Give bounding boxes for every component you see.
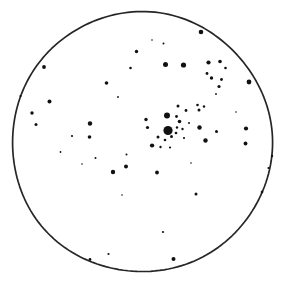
star-point <box>159 146 161 148</box>
star-point <box>195 193 198 196</box>
star-point <box>235 111 237 113</box>
star-point <box>181 128 183 130</box>
star-point <box>210 76 213 79</box>
star-point <box>105 81 109 85</box>
star-point <box>95 157 97 159</box>
star-point <box>30 111 33 114</box>
star-point <box>185 109 188 112</box>
star-point <box>162 231 164 233</box>
star-point <box>183 137 185 139</box>
star-point <box>177 105 180 108</box>
star-point <box>163 62 168 67</box>
star-point <box>71 135 73 137</box>
star-point <box>215 93 217 95</box>
star-point <box>163 126 172 135</box>
star-point <box>117 96 119 98</box>
star-point <box>203 138 207 142</box>
star-point <box>107 253 109 255</box>
plot-background <box>0 0 283 283</box>
star-point <box>175 115 178 118</box>
star-point <box>172 257 176 261</box>
star-point <box>175 132 178 135</box>
star-point <box>224 67 227 70</box>
star-point <box>146 126 149 129</box>
star-point <box>135 50 138 53</box>
star-point <box>48 100 52 104</box>
star-point <box>89 258 92 261</box>
star-point <box>35 123 38 126</box>
telescope-field-figure <box>0 0 283 283</box>
star-point <box>169 146 171 148</box>
star-point <box>178 120 182 124</box>
star-point <box>206 60 210 64</box>
star-field-plot <box>0 0 283 283</box>
star-point <box>144 118 147 121</box>
star-point <box>60 151 62 153</box>
star-point <box>247 80 252 85</box>
star-point <box>163 43 165 45</box>
star-point <box>206 72 209 75</box>
star-point <box>181 62 186 67</box>
star-point <box>197 125 201 129</box>
star-point <box>164 113 170 119</box>
star-point <box>19 95 21 97</box>
star-point <box>155 171 159 175</box>
star-point <box>261 191 264 194</box>
star-point <box>111 170 115 174</box>
star-point <box>217 85 220 88</box>
star-point <box>198 109 201 112</box>
star-point <box>267 167 269 169</box>
star-point <box>126 154 128 156</box>
star-point <box>129 67 132 70</box>
star-point <box>199 30 204 35</box>
star-point <box>220 78 223 81</box>
star-point <box>164 139 167 142</box>
star-point <box>88 135 92 139</box>
star-point <box>244 126 248 130</box>
star-point <box>170 135 173 138</box>
star-point <box>190 162 192 164</box>
star-point <box>203 105 205 107</box>
star-point <box>188 122 190 124</box>
star-point <box>271 155 273 157</box>
star-point <box>196 104 199 107</box>
star-point <box>215 130 218 133</box>
star-point <box>81 163 83 165</box>
star-point <box>88 121 92 125</box>
star-point <box>152 144 154 146</box>
star-point <box>151 39 153 41</box>
star-point <box>176 126 178 128</box>
star-point <box>124 165 128 169</box>
star-point <box>42 65 46 69</box>
star-point <box>157 136 160 139</box>
star-point <box>244 142 248 146</box>
star-point <box>218 60 222 64</box>
star-point <box>121 194 123 196</box>
